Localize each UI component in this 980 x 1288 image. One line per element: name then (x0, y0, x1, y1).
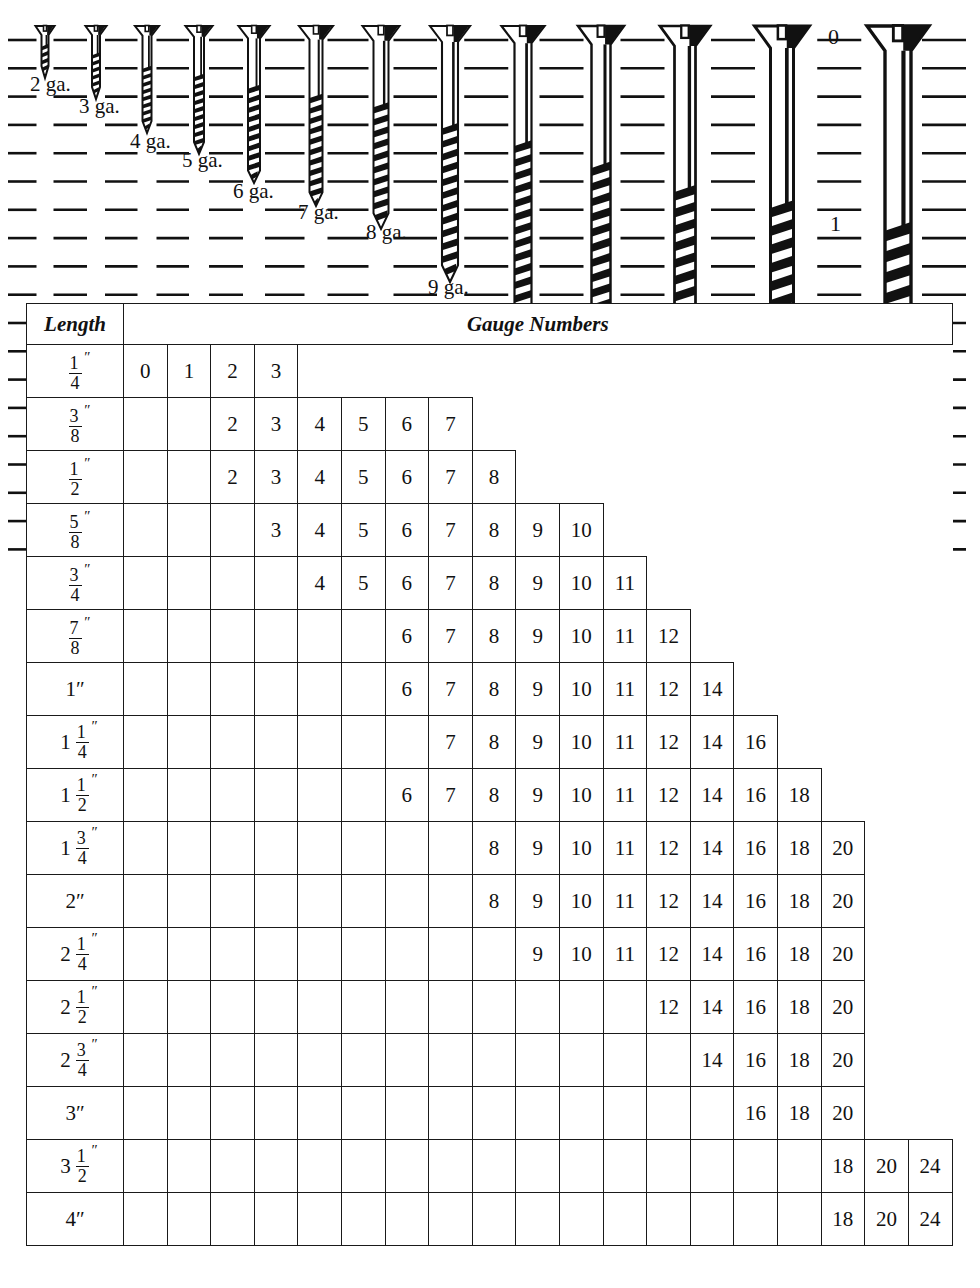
gauge-cell: 20 (821, 1087, 865, 1140)
empty-cell (385, 345, 429, 398)
empty-cell (603, 398, 647, 451)
gauge-cell: 8 (472, 557, 516, 610)
length-cell: 38 (27, 398, 124, 451)
gauge-cell (341, 1193, 385, 1246)
gauge-cell (341, 716, 385, 769)
gauge-cell (167, 769, 211, 822)
gauge-cell: 3 (254, 451, 298, 504)
screw-slot (447, 26, 453, 36)
gauge-cell (385, 1034, 429, 1087)
screw-gauge-label: 3 ga. (79, 96, 120, 117)
fraction-numerator: 3 (69, 566, 82, 586)
ruler-inch-mark: 0 (828, 26, 839, 48)
empty-cell (821, 345, 865, 398)
empty-cell (908, 345, 952, 398)
length-fraction: 34 (75, 829, 90, 868)
length-fraction: 12 (75, 988, 90, 1027)
gauge-cell (647, 1034, 691, 1087)
length-plain: 1″ (65, 679, 84, 700)
gauge-cell (124, 610, 168, 663)
length-fraction: 38 (68, 407, 83, 446)
screw-3-gauge (86, 26, 107, 100)
length-whole: 1 (60, 732, 71, 753)
empty-cell (865, 663, 909, 716)
length-cell: 34 (27, 557, 124, 610)
gauge-cell: 18 (777, 1087, 821, 1140)
screw-slot (681, 26, 689, 38)
fraction-denominator: 4 (75, 849, 90, 868)
gauge-cell (734, 1193, 778, 1246)
screw-gauge-label: 2 ga. (30, 74, 71, 95)
screw-slot (520, 26, 526, 37)
empty-cell (690, 451, 734, 504)
gauge-cell (211, 716, 255, 769)
length-cell: 3″ (27, 1087, 124, 1140)
gauge-cell: 4 (298, 451, 342, 504)
gauge-cell: 9 (516, 610, 560, 663)
gauge-cell: 7 (429, 663, 473, 716)
empty-cell (865, 557, 909, 610)
gauge-cell (254, 1193, 298, 1246)
gauge-cell: 6 (385, 769, 429, 822)
table-row: 214910111214161820 (27, 928, 953, 981)
empty-cell (821, 451, 865, 504)
empty-cell (734, 504, 778, 557)
gauge-cell: 6 (385, 504, 429, 557)
empty-cell (865, 716, 909, 769)
gauge-cell: 11 (603, 769, 647, 822)
gauge-cell: 7 (429, 610, 473, 663)
screw-gauge-length-table: Length Gauge Numbers 1401233823456712234… (26, 303, 953, 1246)
gauge-cell: 11 (603, 822, 647, 875)
gauge-cell (516, 981, 560, 1034)
gauge-cell (341, 928, 385, 981)
gauge-cell: 18 (821, 1193, 865, 1246)
gauge-cell (472, 1193, 516, 1246)
gauge-cell (211, 1193, 255, 1246)
gauge-cell: 7 (429, 504, 473, 557)
length-fraction: 78 (68, 619, 83, 658)
length-value: 12 (68, 460, 83, 499)
length-cell: 4″ (27, 1193, 124, 1246)
screw-gauge-label: 6 ga. (233, 181, 274, 202)
gauge-cell: 4 (298, 557, 342, 610)
fraction-denominator: 2 (75, 796, 90, 815)
gauge-cell (429, 822, 473, 875)
gauge-cell (167, 928, 211, 981)
table-row: 1348910111214161820 (27, 822, 953, 875)
length-value: 114 (60, 723, 90, 762)
length-cell: 212 (27, 981, 124, 1034)
gauge-cell (167, 822, 211, 875)
empty-cell (734, 451, 778, 504)
gauge-cell: 1 (167, 345, 211, 398)
empty-cell (734, 557, 778, 610)
gauge-cell (298, 1140, 342, 1193)
empty-cell (472, 398, 516, 451)
empty-cell (908, 875, 952, 928)
gauge-cell (254, 981, 298, 1034)
table-row: 122345678 (27, 451, 953, 504)
table-row: 1147891011121416 (27, 716, 953, 769)
gauge-cell: 12 (647, 610, 691, 663)
gauge-cell: 18 (821, 1140, 865, 1193)
screw-slot (252, 26, 257, 34)
screw-slot (778, 26, 786, 40)
gauge-cell: 20 (865, 1140, 909, 1193)
empty-cell (690, 610, 734, 663)
gauge-cell: 9 (516, 504, 560, 557)
empty-cell (865, 1087, 909, 1140)
gauge-cell (298, 716, 342, 769)
length-value: 134 (60, 829, 90, 868)
empty-cell (690, 557, 734, 610)
length-value: 312 (60, 1147, 90, 1186)
gauge-cell (341, 981, 385, 1034)
gauge-cell (254, 928, 298, 981)
gauge-cell: 11 (603, 610, 647, 663)
empty-cell (647, 504, 691, 557)
gauge-cell (559, 1193, 603, 1246)
length-whole: 2 (60, 997, 71, 1018)
gauge-cell (254, 1087, 298, 1140)
gauge-cell (124, 398, 168, 451)
gauge-cell (690, 1087, 734, 1140)
gauge-cell: 9 (516, 557, 560, 610)
fraction-numerator: 7 (69, 619, 82, 639)
